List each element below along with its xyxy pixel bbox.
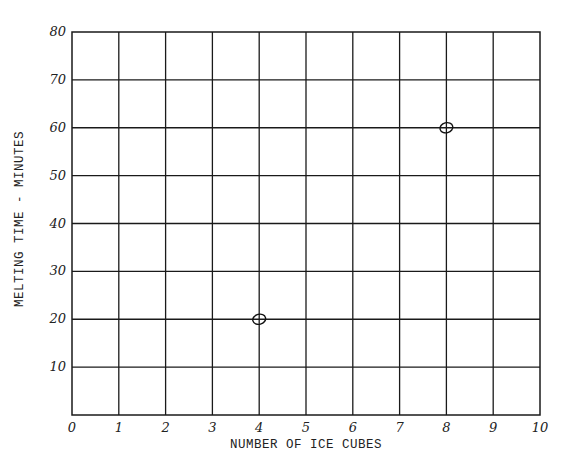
x-tick-label: 5 xyxy=(302,420,310,435)
x-tick-label: 1 xyxy=(115,420,123,435)
y-tick-label: 60 xyxy=(49,120,66,135)
x-tick-label: 8 xyxy=(442,420,450,435)
x-axis-ticks: 012345678910 xyxy=(68,420,548,435)
x-tick-label: 6 xyxy=(349,420,357,435)
x-tick-label: 10 xyxy=(532,420,549,435)
y-tick-label: 70 xyxy=(49,72,66,87)
x-tick-label: 7 xyxy=(395,420,404,435)
y-axis-label: MELTING TIME - MINUTES xyxy=(13,131,27,307)
x-tick-label: 9 xyxy=(489,420,497,435)
x-tick-label: 2 xyxy=(160,420,169,435)
x-tick-label: 3 xyxy=(208,420,216,435)
x-tick-label: 0 xyxy=(68,420,76,435)
y-tick-label: 20 xyxy=(48,311,66,326)
grid-lines xyxy=(72,32,540,415)
y-tick-label: 10 xyxy=(49,359,66,374)
y-tick-label: 80 xyxy=(49,24,66,39)
y-axis-ticks: 1020304050607080 xyxy=(48,24,66,374)
y-tick-label: 30 xyxy=(49,263,66,278)
y-tick-label: 50 xyxy=(49,168,66,183)
y-tick-label: 40 xyxy=(48,216,66,231)
x-axis-label: NUMBER OF ICE CUBES xyxy=(230,438,382,452)
x-tick-label: 4 xyxy=(254,420,263,435)
scatter-chart: 012345678910 1020304050607080 NUMBER OF … xyxy=(0,0,576,474)
